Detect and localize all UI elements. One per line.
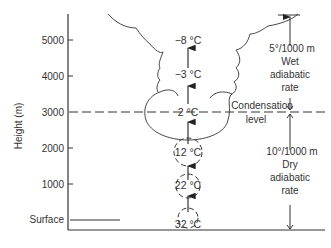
adiabatic-lapse-diagram: 5000 4000 3000 2000 1000 Surface Height …	[0, 0, 331, 248]
temp-2000: 12 °C	[175, 146, 202, 158]
condensation-label: Condensation	[231, 100, 293, 111]
temp-4000: −3 °C	[175, 68, 202, 80]
dry-rate-label: 10°/1000 m Dry adiabatic rate	[266, 146, 317, 196]
condensation-label-level: level	[246, 114, 267, 125]
tick-2000: 2000	[42, 143, 65, 154]
tick-3000: 3000	[42, 107, 65, 118]
wet-rate-label: 5°/1000 m Wet adiabatic rate	[269, 43, 315, 93]
svg-text:10°/1000 m: 10°/1000 m	[266, 146, 317, 157]
tick-4000: 4000	[42, 71, 65, 82]
temp-3000: 2 °C	[178, 106, 199, 118]
y-axis-label: Height (m)	[13, 103, 24, 150]
temp-surface: 32 °C	[175, 218, 202, 230]
temp-1000: 22 °C	[175, 179, 202, 191]
temp-5000: −8 °C	[175, 34, 202, 46]
tick-5000: 5000	[42, 35, 65, 46]
svg-text:Dry: Dry	[282, 159, 298, 170]
svg-text:rate: rate	[281, 82, 299, 93]
svg-text:adiabatic: adiabatic	[270, 172, 310, 183]
tick-1000: 1000	[42, 179, 65, 190]
svg-text:5°/1000 m: 5°/1000 m	[269, 43, 315, 54]
svg-text:Wet: Wet	[281, 56, 299, 67]
surface-label: Surface	[30, 214, 65, 225]
svg-text:adiabatic: adiabatic	[270, 69, 310, 80]
svg-text:rate: rate	[281, 185, 299, 196]
